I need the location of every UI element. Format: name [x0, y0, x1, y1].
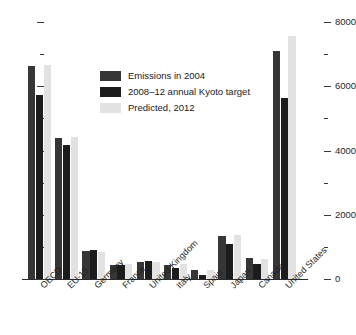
legend-label-emissions-2004: Emissions in 2004	[128, 71, 205, 81]
y-tick-label: 0	[335, 274, 340, 284]
bar	[28, 66, 35, 279]
bar-group	[55, 22, 78, 279]
bar-group	[218, 22, 241, 279]
y-tick-minor-right	[324, 183, 328, 184]
y-tick-major-right	[324, 279, 331, 280]
y-tick-major-right	[324, 215, 331, 216]
plot-area: 02000400060008000 OECDEU-15GermanyFrance…	[22, 18, 300, 262]
legend-label-kyoto-target: 2008–12 annual Kyoto target	[128, 87, 250, 97]
legend-swatch-kyoto-target	[100, 87, 121, 97]
y-tick-label: 8000	[335, 17, 356, 27]
y-tick-label: 6000	[335, 81, 356, 91]
bar-group	[137, 22, 160, 279]
y-tick-major-right	[324, 151, 331, 152]
bar	[226, 244, 233, 279]
y-tick-major-right	[324, 86, 331, 87]
bar	[90, 250, 97, 279]
y-tick-major-right	[324, 22, 331, 23]
legend-item: Emissions in 2004	[100, 69, 250, 83]
y-tick-minor-right	[324, 54, 328, 55]
legend-item: 2008–12 annual Kyoto target	[100, 85, 250, 99]
bar-group	[273, 22, 296, 279]
chart-legend: Emissions in 2004 2008–12 annual Kyoto t…	[100, 69, 250, 117]
bar	[253, 264, 260, 279]
legend-swatch-predicted-2012	[100, 103, 121, 113]
bar	[71, 137, 78, 279]
bar-group	[246, 22, 269, 279]
bar	[63, 145, 70, 279]
bar-group	[110, 22, 133, 279]
legend-swatch-emissions-2004	[100, 71, 121, 81]
legend-label-predicted-2012: Predicted, 2012	[128, 103, 195, 113]
y-tick-label: 2000	[335, 210, 356, 220]
bar	[273, 51, 280, 279]
bar	[281, 98, 288, 279]
bar-group	[28, 22, 51, 279]
legend-item: Predicted, 2012	[100, 101, 250, 115]
bar	[44, 65, 51, 279]
y-tick-label: 4000	[335, 146, 356, 156]
y-tick-minor-right	[324, 118, 328, 119]
bar	[288, 36, 295, 279]
bar-group	[164, 22, 187, 279]
bar	[36, 95, 43, 279]
bar	[55, 138, 62, 279]
bar-group	[82, 22, 105, 279]
